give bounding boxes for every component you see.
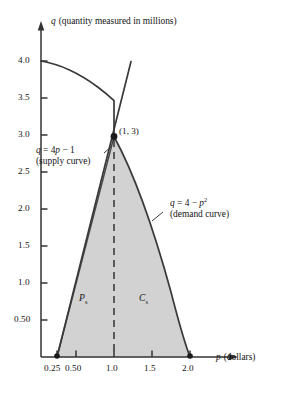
demand-eq-const: 4 (185, 198, 190, 208)
demand-eq-exponent: 2 (204, 196, 207, 203)
x-axis-title: p(dollars) (216, 352, 255, 363)
y-tick-label-7: 4.0 (18, 55, 30, 65)
y-tick-label-4: 2.5 (18, 166, 30, 176)
y-axis-title: q(quantity measured in millions) (51, 16, 177, 27)
demand-annotation-leader (152, 212, 163, 221)
equilibrium-point-marker (111, 133, 118, 140)
y-tick-label-1: 1.0 (18, 277, 30, 287)
y-tick-label-3: 2.0 (18, 203, 30, 213)
supply-curve-equation: q = 4p − 1 (36, 145, 90, 156)
y-tick-label-0: 0.50 (14, 314, 30, 324)
consumer-surplus-region (114, 137, 190, 358)
plot-canvas (0, 0, 286, 401)
x-axis-symbol: p (216, 352, 221, 362)
supply-eq-minus: − (62, 145, 67, 155)
y-tick-label-2: 1.5 (18, 240, 30, 250)
consumer-surplus-label: Cs (139, 293, 148, 305)
supply-eq-equals: = (43, 145, 48, 155)
supply-curve-caption: (supply curve) (36, 156, 90, 167)
equilibrium-point-label: (1, 3) (119, 126, 139, 136)
demand-eq-equals: = (177, 198, 182, 208)
demand-intercept-marker (187, 353, 193, 359)
demand-curve-annotation: q = 4 − p2 (demand curve) (170, 196, 229, 219)
supply-curve-annotation: q = 4p − 1 (supply curve) (36, 145, 90, 166)
y-axis-ticks (41, 61, 48, 320)
demand-eq-lhs: q (170, 198, 175, 208)
supply-eq-var: p (55, 145, 60, 155)
y-axis-note: (quantity measured in millions) (59, 16, 177, 26)
x-tick-label-4: 2.0 (182, 363, 194, 373)
supply-demand-surplus-figure: q(quantity measured in millions) p(dolla… (0, 0, 286, 401)
demand-curve-caption: (demand curve) (170, 209, 229, 220)
x-axis-note: (dollars) (224, 352, 256, 362)
consumer-surplus-subscript: s (145, 298, 148, 305)
y-axis-symbol: q (51, 16, 56, 26)
producer-surplus-subscript: s (85, 298, 88, 305)
shaded-surplus-regions (57, 137, 190, 358)
supply-eq-lhs: q (36, 145, 41, 155)
x-tick-label-3: 1.5 (144, 363, 156, 373)
y-tick-label-5: 3.0 (18, 129, 30, 139)
supply-eq-const: 1 (70, 145, 75, 155)
demand-eq-minus: − (192, 198, 197, 208)
supply-intercept-marker (54, 353, 60, 359)
y-tick-label-6: 3.5 (18, 92, 30, 102)
x-tick-label-2: 1.0 (106, 363, 118, 373)
demand-curve-equation: q = 4 − p2 (170, 196, 229, 209)
y-axis-arrowhead (38, 21, 45, 31)
producer-surplus-label: Ps (79, 293, 87, 305)
x-tick-label-1: 0.50 (65, 363, 81, 373)
x-tick-label-0: 0.25 (44, 363, 60, 373)
